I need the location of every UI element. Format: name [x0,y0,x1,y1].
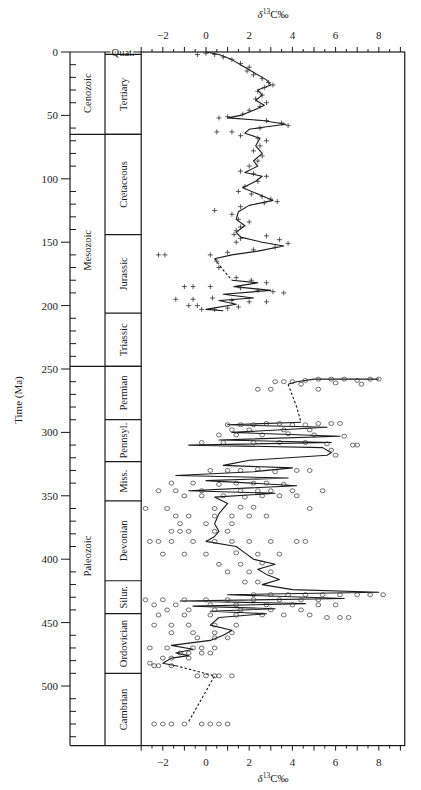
y-axis-time: 050100150200250300350400450500 [42,46,77,737]
plus-marker [247,299,252,304]
circle-marker [191,481,196,485]
circle-marker [204,552,209,556]
plus-marker [195,303,200,308]
circle-marker [186,651,191,655]
plus-marker [264,299,269,304]
circle-marker [217,433,222,437]
chart-canvas: CenozoicMesozoicPaleozoicQuat.TertiaryCr… [0,0,421,790]
circle-marker [156,539,161,543]
data-points [143,51,385,726]
circle-marker [199,651,204,655]
plus-marker [156,252,161,257]
circle-marker [199,494,204,498]
circle-marker [221,494,226,498]
circle-marker [255,580,260,584]
circle-marker [307,613,312,617]
x-axis-bottom: −202468 [141,746,400,768]
period-label-cambrian: Cambrian [118,688,129,730]
plot-area [141,51,405,746]
circle-marker [208,613,213,617]
x-tick-label: 8 [376,29,382,41]
plus-marker [229,298,234,303]
circle-marker [195,636,200,640]
circle-marker [217,482,222,486]
circle-marker [242,580,247,584]
period-label-pennsyl: Pennsyl. [118,423,129,459]
circle-marker [368,593,373,597]
x-tick-label: 8 [376,756,382,768]
plus-marker [260,153,265,158]
circle-marker [178,529,183,533]
circle-marker [325,616,330,620]
circle-marker [333,603,338,607]
period-label-triassic: Triassic [118,323,129,356]
circle-marker [160,552,165,556]
circle-marker [160,722,165,726]
circle-marker [307,468,312,472]
plus-marker [195,52,200,57]
circle-marker [169,623,174,627]
circle-marker [230,428,235,432]
circle-marker [212,646,217,650]
y-tick-label: 500 [42,680,59,692]
plus-marker [262,200,267,205]
circle-marker [204,522,209,526]
plus-marker [251,171,256,176]
circle-marker [208,722,213,726]
circle-marker [160,656,165,660]
plus-marker [208,284,213,289]
circle-marker [156,613,161,617]
circle-marker [329,448,334,452]
circle-marker [173,489,178,493]
plus-marker [264,174,269,179]
plus-marker [229,57,234,62]
circle-marker [212,529,217,533]
plus-marker [255,179,260,184]
circle-marker [152,603,157,607]
circle-marker [182,494,187,498]
circle-marker [234,623,239,627]
circle-marker [165,646,170,650]
plus-marker [162,252,167,257]
plus-marker [234,240,239,245]
y-tick-label: 350 [42,490,59,502]
circle-marker [217,562,222,566]
plus-marker [247,219,252,224]
plus-marker [199,307,204,312]
dashed-gap-curve [288,384,301,422]
circle-marker [299,598,304,602]
plot-frame [141,52,405,746]
circle-marker [225,570,230,574]
circle-marker [333,453,338,457]
plus-marker [225,250,230,255]
x-axis-label-top: δ13C‰ [258,7,289,21]
smoothed-curves [163,52,379,722]
circle-marker [346,616,351,620]
circle-marker [299,608,304,612]
plus-marker [234,228,239,233]
circle-marker [255,489,260,493]
circle-marker [247,570,252,574]
y-tick-label: 400 [42,553,59,565]
era-label-mesozoic: Mesozoic [83,230,94,271]
x-tick-label: 4 [290,29,296,41]
x-tick-label: −2 [157,756,169,768]
circle-marker [225,468,230,472]
circle-marker [186,514,191,518]
circle-marker [208,651,213,655]
circle-marker [156,489,161,493]
circle-marker [169,481,174,485]
y-tick-label: 50 [47,109,59,121]
plus-marker [240,112,245,117]
circle-marker [316,422,321,426]
plus-marker [236,189,241,194]
circle-marker [225,636,230,640]
circle-marker [178,522,183,526]
circle-marker [273,380,278,384]
circle-marker [303,423,308,427]
circle-marker [281,380,286,384]
circle-marker [307,506,312,510]
circle-marker [303,539,308,543]
circle-marker [191,631,196,635]
circle-marker [273,470,278,474]
